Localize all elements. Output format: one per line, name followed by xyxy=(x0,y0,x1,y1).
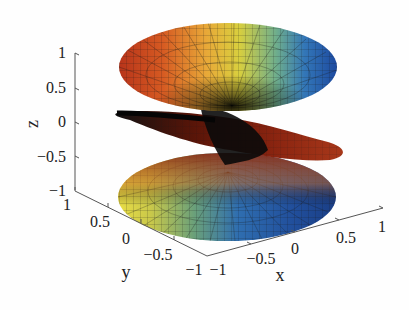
z-tick-label: 0.5 xyxy=(46,79,66,96)
x-tick-label: 0.5 xyxy=(336,229,356,246)
z-tick-label: 1 xyxy=(58,44,66,61)
y-tick-label: −1 xyxy=(185,261,202,278)
x-tick-label: 1 xyxy=(378,218,386,235)
upper-surface xyxy=(119,22,337,111)
y-axis-label: y xyxy=(122,262,131,282)
y-tick-label: −0.5 xyxy=(143,246,172,263)
z-axis-label: z xyxy=(22,120,42,128)
surface-plot: 1 0.5 0 −0.5 −1 z xyxy=(0,0,409,310)
z-tick-label: −0.5 xyxy=(37,148,66,165)
helicoid-ribbon xyxy=(115,105,343,165)
y-tick-label: 0.5 xyxy=(90,213,110,230)
x-tick-label: −0.5 xyxy=(246,250,275,267)
y-tick-label: 1 xyxy=(63,196,71,213)
x-tick-label: 0 xyxy=(291,240,299,257)
x-tick-label: −1 xyxy=(209,261,226,278)
y-tick-label: 0 xyxy=(122,230,130,247)
z-axis: 1 0.5 0 −0.5 −1 z xyxy=(22,44,79,199)
x-axis-label: x xyxy=(276,265,285,285)
z-tick-label: 0 xyxy=(58,113,66,130)
